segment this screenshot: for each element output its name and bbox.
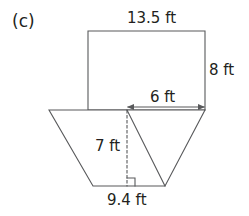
part-label: (c) (12, 13, 35, 30)
dimension-label-rectangle-right: 8 ft (209, 63, 234, 78)
dimension-label-trapezoid-bottom: 9.4 ft (107, 193, 147, 208)
dimension-label-rectangle-top: 13.5 ft (127, 11, 176, 26)
figure-drawing (0, 0, 249, 216)
geometry-figure: (c) 13.5 ft 8 ft 6 ft 7 ft 9.4 ft (0, 0, 249, 216)
dimension-label-trapezoid-height: 7 ft (95, 139, 120, 154)
dimension-label-trapezoid-top-right: 6 ft (150, 90, 175, 105)
rectangle-shape (88, 31, 205, 110)
